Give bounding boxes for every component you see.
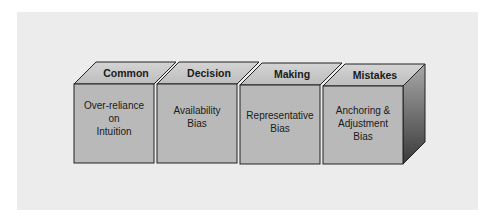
cube-top-label-mistakes: Mistakes [335,69,415,81]
cube-front-label-representative: Representative Bias [240,107,320,137]
cube-front-label-anchoring: Anchoring & Adjustment Bias [323,100,403,146]
cube-front-label-availability: Availability Bias [157,102,237,132]
cube-top-label-common: Common [86,67,166,79]
cube-front-label-intuition: Over-reliance on Intuition [74,95,154,141]
cube-top-label-decision: Decision [169,67,249,79]
cube-top-label-making: Making [252,68,332,80]
